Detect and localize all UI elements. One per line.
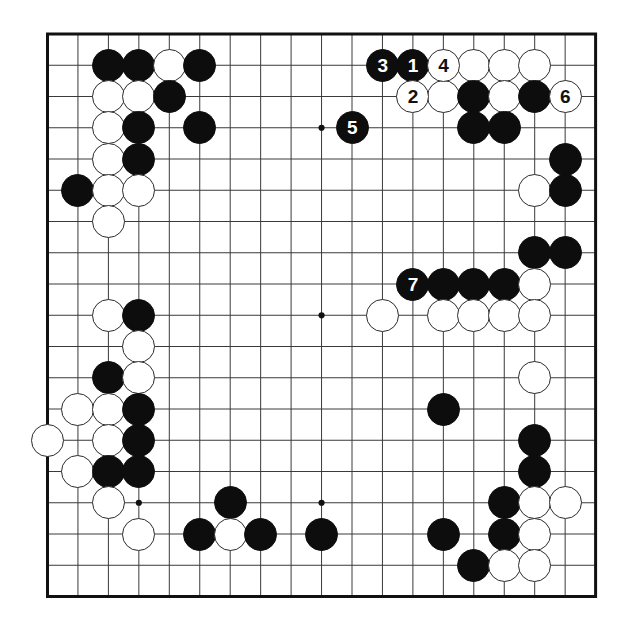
black-stone[interactable] (549, 143, 582, 176)
star-point (318, 125, 324, 131)
numbered-move-3[interactable]: 3 (366, 49, 399, 82)
move-number-label: 1 (408, 55, 418, 74)
white-stone[interactable] (92, 143, 125, 176)
white-stone[interactable] (92, 299, 125, 332)
black-stone[interactable] (427, 518, 460, 551)
white-stone[interactable] (366, 299, 399, 332)
move-number-label: 4 (438, 55, 448, 74)
white-stone[interactable] (488, 49, 521, 82)
black-stone[interactable] (549, 236, 582, 269)
black-stone[interactable] (122, 49, 155, 82)
black-stone[interactable] (244, 518, 277, 551)
black-stone[interactable] (488, 486, 521, 519)
white-stone[interactable] (518, 549, 551, 582)
black-stone[interactable] (92, 361, 125, 394)
black-stone[interactable] (122, 299, 155, 332)
black-stone[interactable] (518, 455, 551, 488)
white-stone[interactable] (518, 268, 551, 301)
black-stone[interactable] (549, 174, 582, 207)
white-stone[interactable] (518, 299, 551, 332)
black-stone[interactable] (305, 518, 338, 551)
black-stone[interactable] (427, 268, 460, 301)
white-stone[interactable] (92, 393, 125, 426)
white-stone[interactable] (92, 80, 125, 113)
black-stone[interactable] (92, 49, 125, 82)
black-stone[interactable] (183, 49, 216, 82)
white-stone[interactable] (427, 80, 460, 113)
black-stone[interactable] (153, 80, 186, 113)
move-number-label: 7 (408, 274, 418, 293)
white-stone[interactable] (518, 518, 551, 551)
black-stone[interactable] (488, 268, 521, 301)
black-stone[interactable] (457, 268, 490, 301)
white-stone[interactable] (61, 393, 94, 426)
star-point (136, 500, 142, 506)
white-stone[interactable] (427, 299, 460, 332)
black-stone[interactable] (61, 174, 94, 207)
numbered-move-7[interactable]: 7 (396, 268, 429, 301)
go-diagram-page: 1234567 (0, 0, 633, 644)
white-stone[interactable] (457, 49, 490, 82)
white-stone[interactable] (92, 205, 125, 238)
numbered-move-5[interactable]: 5 (336, 111, 369, 144)
black-stone[interactable] (92, 455, 125, 488)
white-stone[interactable] (92, 424, 125, 457)
numbered-move-1[interactable]: 1 (396, 49, 429, 82)
white-stone[interactable] (518, 174, 551, 207)
move-number-label: 2 (408, 87, 418, 106)
white-stone[interactable] (488, 549, 521, 582)
star-point (318, 312, 324, 318)
white-stone[interactable] (31, 424, 64, 457)
black-stone[interactable] (122, 393, 155, 426)
black-stone[interactable] (183, 518, 216, 551)
black-stone[interactable] (518, 80, 551, 113)
star-point (318, 500, 324, 506)
white-stone[interactable] (153, 49, 186, 82)
white-stone[interactable] (92, 486, 125, 519)
black-stone[interactable] (122, 143, 155, 176)
go-board[interactable]: 1234567 (0, 0, 633, 644)
white-stone[interactable] (92, 111, 125, 144)
black-stone[interactable] (122, 424, 155, 457)
numbered-move-6[interactable]: 6 (549, 80, 582, 113)
black-stone[interactable] (518, 424, 551, 457)
move-number-label: 6 (560, 87, 570, 106)
white-stone[interactable] (549, 486, 582, 519)
white-stone[interactable] (214, 518, 247, 551)
black-stone[interactable] (214, 486, 247, 519)
move-number-label: 3 (377, 55, 387, 74)
numbered-move-4[interactable]: 4 (427, 49, 460, 82)
black-stone[interactable] (488, 111, 521, 144)
white-stone[interactable] (122, 518, 155, 551)
black-stone[interactable] (427, 393, 460, 426)
white-stone[interactable] (122, 174, 155, 207)
white-stone[interactable] (518, 49, 551, 82)
white-stone[interactable] (488, 299, 521, 332)
white-stone[interactable] (488, 80, 521, 113)
white-stone[interactable] (92, 174, 125, 207)
black-stone[interactable] (488, 518, 521, 551)
white-stone[interactable] (457, 299, 490, 332)
move-number-label: 5 (347, 118, 357, 137)
black-stone[interactable] (457, 549, 490, 582)
